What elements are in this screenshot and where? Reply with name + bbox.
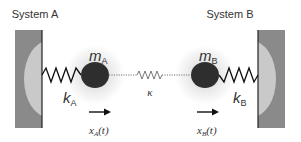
spring-b-label: kB	[233, 89, 247, 108]
system-a-title: System A	[12, 8, 59, 20]
right-wall	[228, 30, 285, 128]
left-wall	[15, 30, 72, 128]
coupling-label: κ	[147, 86, 153, 98]
displacement-b-label: xB(t)	[196, 124, 217, 138]
arrow-b-icon	[197, 109, 219, 116]
system-b-title: System B	[206, 8, 253, 20]
arrow-a-icon	[89, 109, 111, 116]
displacement-a-label: xA(t)	[88, 124, 109, 138]
coupled-oscillator-diagram: System A System B mA mB kA	[0, 0, 301, 142]
